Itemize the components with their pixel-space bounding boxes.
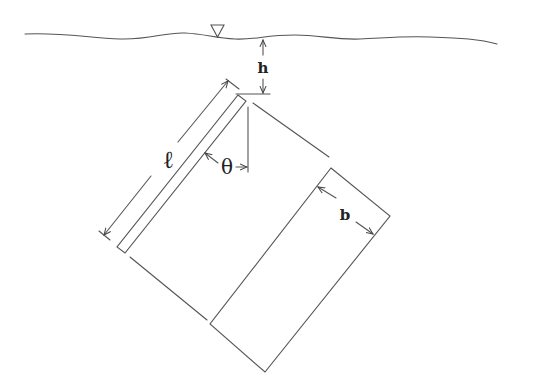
depth-label: h [258,59,269,77]
length-dimension-line-lower [104,176,151,235]
length-extension-bottom [99,231,110,240]
free-surface-marker-icon [211,25,224,37]
width-dimension-line-upper [318,187,336,198]
water-surface [25,33,497,44]
gate-bottom-edge [130,257,207,320]
angle-label: θ [221,155,233,179]
gate-top-edge [253,103,329,157]
length-label: ℓ [161,145,176,174]
gate-right-panel [210,168,390,372]
width-dimension-line-lower [356,222,373,234]
width-label: b [340,206,351,224]
angle-arrow-left [205,153,218,163]
gate-diagram: h ℓ θ b [0,0,548,391]
